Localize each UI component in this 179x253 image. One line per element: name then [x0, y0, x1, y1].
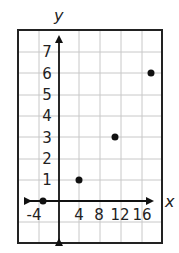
x-tick: 4: [74, 206, 84, 224]
y-tick: 2: [42, 150, 52, 168]
x-tick: -4: [27, 206, 42, 224]
y-tick: 3: [42, 129, 52, 147]
x-tick: 12: [110, 206, 129, 224]
x-tick: 8: [94, 206, 104, 224]
coordinate-plane: y x 7 6 5 4 3 2 1 -4 4 8 12 16: [0, 0, 179, 253]
x-tick: 16: [132, 206, 151, 224]
data-point: [112, 134, 119, 141]
y-tick: 4: [42, 107, 52, 125]
y-tick: 5: [42, 86, 52, 104]
y-tick: 6: [42, 65, 52, 83]
x-tick-labels: -4 4 8 12 16: [27, 206, 152, 224]
y-axis-label: y: [53, 6, 64, 25]
data-point: [148, 70, 155, 77]
y-tick-labels: 7 6 5 4 3 2 1: [42, 43, 52, 189]
y-tick: 7: [42, 43, 52, 61]
y-tick: 1: [42, 171, 52, 189]
data-point: [40, 198, 47, 205]
x-axis-label: x: [164, 192, 175, 211]
data-point: [76, 177, 83, 184]
